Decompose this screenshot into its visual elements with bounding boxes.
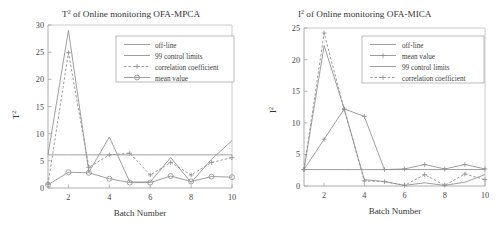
x-tick-label: 2 [322, 191, 326, 200]
legend-label: 99 control limits [155, 53, 203, 61]
y-ticks-right: 0 5 10 15 20 25 [292, 24, 308, 191]
legend-label: mean value [402, 53, 435, 61]
y-tick-label: 15 [292, 87, 300, 96]
y-tick-label: 25 [36, 48, 44, 57]
y-ticks-left: 0 5 10 15 20 25 30 [36, 21, 52, 193]
title-main-right: of Online monitoring OFA-MICA [306, 9, 431, 19]
series-line-mean-value [48, 172, 232, 185]
legend-label: off-line [155, 42, 176, 50]
x-tick-label: 10 [481, 191, 489, 200]
x-ticks-left: 2 4 6 8 10 [66, 185, 236, 203]
legend-left: off-line 99 control limits correlation c… [116, 36, 234, 83]
chart-svg-left: T2 of Online monitoring OFA-MPCA T2 0 [0, 0, 250, 231]
x-tick-label: 10 [228, 193, 236, 202]
svg-text:I2: I2 [268, 107, 279, 113]
y-tick-label: 30 [36, 21, 44, 30]
x-tick-label: 4 [362, 191, 366, 200]
y-tick-label: 0 [296, 182, 300, 191]
y-tick-label: 20 [292, 56, 300, 65]
legend-label: correlation coefficient [155, 64, 219, 72]
y-axis-label-left: T2 [11, 111, 22, 120]
y-tick-label: 10 [36, 130, 44, 139]
chart-panel-left: T2 of Online monitoring OFA-MPCA T2 0 [0, 0, 250, 231]
figure-page: T2 of Online monitoring OFA-MPCA T2 0 [0, 0, 501, 231]
x-tick-label: 4 [107, 193, 111, 202]
x-axis-label-right: Batch Number [369, 206, 422, 216]
x-axis-label-left: Batch Number [114, 208, 167, 218]
series-line-mean-value [304, 109, 485, 170]
x-tick-label: 2 [66, 193, 70, 202]
legend-label: mean value [155, 75, 188, 83]
ylabel-sup-right: 2 [268, 107, 274, 110]
x-tick-label: 8 [443, 191, 447, 200]
y-axis-label-right: I2 [268, 107, 279, 113]
y-tick-label: 20 [36, 75, 44, 84]
legend-label: 99 control limits [402, 64, 450, 72]
legend-label: off-line [402, 42, 423, 50]
y-tick-label: 5 [40, 157, 44, 166]
ylabel-sup-left: 2 [11, 111, 17, 114]
svg-text:T2: T2 [11, 111, 22, 120]
chart-svg-right: I2 of Online monitoring OFA-MICA I2 0 5 … [250, 0, 501, 231]
chart-title-right: I2 of Online monitoring OFA-MICA [298, 9, 432, 20]
y-tick-label: 25 [292, 24, 300, 33]
series-markers-mean-value [302, 106, 488, 171]
y-tick-label: 0 [40, 184, 44, 193]
y-tick-label: 10 [292, 119, 300, 128]
y-tick-label: 5 [296, 150, 300, 159]
x-tick-label: 6 [403, 191, 407, 200]
chart-panel-right: I2 of Online monitoring OFA-MICA I2 0 5 … [250, 0, 501, 231]
legend-right: off-line mean value 99 control limits co… [362, 36, 484, 83]
legend-label: correlation coefficient [402, 75, 466, 83]
chart-title-left: T2 of Online monitoring OFA-MPCA [62, 9, 200, 20]
x-tick-label: 6 [148, 193, 152, 202]
x-tick-label: 8 [189, 193, 193, 202]
title-main-left: of Online monitoring OFA-MPCA [73, 9, 201, 19]
y-tick-label: 15 [36, 103, 44, 112]
